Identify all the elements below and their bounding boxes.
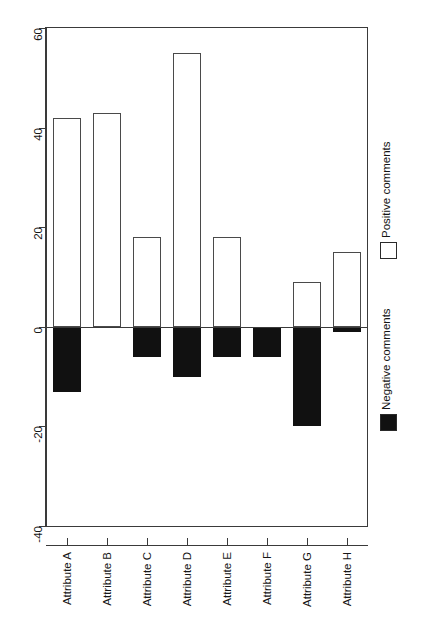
legend-label: Negative comments (378, 296, 394, 410)
y-axis-tick-label: 40 (30, 128, 46, 166)
x-axis-tick (267, 538, 268, 546)
x-axis-tick-label: Attribute B (100, 552, 114, 630)
bars-layer (47, 28, 367, 526)
bar-negative (253, 327, 281, 357)
bar-positive (93, 113, 121, 327)
bar-negative (213, 327, 241, 357)
x-axis-tick-label: Attribute F (260, 552, 274, 630)
x-axis-tick (67, 538, 68, 546)
legend-label: Positive comments (378, 124, 394, 238)
legend-swatch-negative (380, 414, 397, 431)
x-axis-tick-label: Attribute E (220, 552, 234, 630)
zero-baseline (47, 327, 367, 328)
bar-positive (173, 53, 201, 327)
x-axis-tick-label: Attribute A (60, 552, 74, 630)
bar-positive (213, 237, 241, 327)
x-axis-tick (227, 538, 228, 546)
bar-positive (293, 282, 321, 327)
legend-swatch-positive (380, 242, 397, 259)
y-axis-tick-label: 0 (30, 327, 46, 365)
x-axis-tick-label: Attribute D (180, 552, 194, 630)
bar-positive (133, 237, 161, 327)
x-axis-tick (147, 538, 148, 546)
y-axis-tick-label: 20 (30, 227, 46, 265)
x-axis-tick-label: Attribute H (340, 552, 354, 630)
bar-positive (333, 252, 361, 327)
x-axis-tick (307, 538, 308, 546)
bar-negative (173, 327, 201, 377)
bar-negative (293, 327, 321, 427)
y-axis-tick-label: -20 (30, 426, 46, 464)
x-axis-spine (46, 545, 368, 546)
bar-negative (133, 327, 161, 357)
x-axis-tick (187, 538, 188, 546)
bar-positive (53, 118, 81, 327)
y-axis-tick-label: 60 (30, 28, 46, 66)
chart-legend: Positive commentsNegative comments (374, 0, 428, 631)
x-axis-tick (347, 538, 348, 546)
y-axis-tick-label: -40 (30, 526, 46, 564)
x-axis-tick-label: Attribute C (140, 552, 154, 630)
chart-root: 6040200-20-40 Attribute AAttribute BAttr… (0, 0, 428, 631)
x-axis-tick (107, 538, 108, 546)
x-axis-tick-label: Attribute G (300, 552, 314, 630)
bar-negative (53, 327, 81, 392)
